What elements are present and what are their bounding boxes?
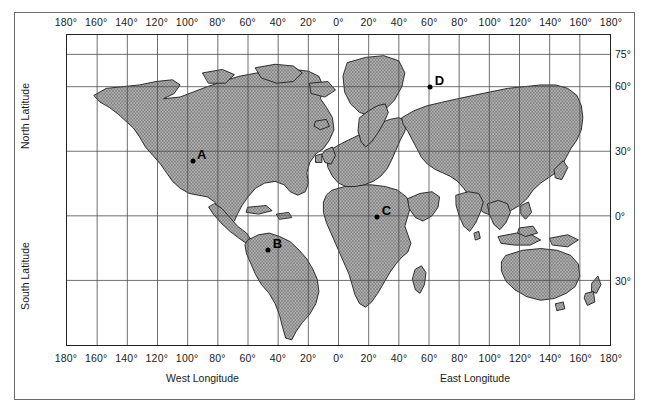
longitude-tick-label: 180° <box>600 352 623 364</box>
latitude-tick-label: 75° <box>615 48 641 60</box>
longitude-tick-label: 120° <box>146 352 169 364</box>
longitude-tick-label: 160° <box>85 352 108 364</box>
longitude-tick-label: 0° <box>333 352 343 364</box>
map-point-label-c: C <box>382 203 391 218</box>
longitude-tick-label: 160° <box>85 16 108 28</box>
longitude-tick-label: 160° <box>569 352 592 364</box>
longitude-tick-label: 80° <box>451 16 467 28</box>
east-longitude-axis-title: East Longitude <box>339 372 611 384</box>
longitude-tick-label: 100° <box>479 352 502 364</box>
sri-lanka <box>474 231 480 240</box>
map-point-marker-d[interactable] <box>428 85 433 90</box>
longitude-tick-label: 120° <box>509 16 532 28</box>
map-point-marker-c[interactable] <box>375 215 380 220</box>
longitude-tick-label: 100° <box>176 352 199 364</box>
latitude-tick-label: 60° <box>615 80 641 92</box>
longitude-tick-label: 100° <box>479 16 502 28</box>
longitude-tick-label: 120° <box>146 16 169 28</box>
ireland <box>316 154 322 163</box>
longitude-tick-label: 0° <box>333 16 343 28</box>
west-longitude-axis-title: West Longitude <box>66 372 339 384</box>
longitude-tick-label: 140° <box>539 352 562 364</box>
map-point-label-b: B <box>273 235 282 250</box>
longitude-tick-label: 60° <box>239 352 255 364</box>
longitude-tick-label: 100° <box>176 16 199 28</box>
longitude-tick-label: 140° <box>539 16 562 28</box>
longitude-tick-label: 140° <box>115 352 138 364</box>
longitude-tick-label: 140° <box>115 16 138 28</box>
longitude-tick-label: 160° <box>569 16 592 28</box>
map-point-marker-a[interactable] <box>190 158 195 163</box>
latitude-axis-right: 75°60°30°0°30° <box>615 34 641 346</box>
longitude-tick-label: 180° <box>600 16 623 28</box>
longitude-tick-label: 20° <box>300 16 316 28</box>
longitude-tick-label: 80° <box>451 352 467 364</box>
longitude-tick-label: 60° <box>421 352 437 364</box>
map-point-label-a: A <box>197 146 206 161</box>
latitude-tick-label: 30° <box>615 145 641 157</box>
map-plot-area: ABCD <box>66 34 611 346</box>
latitude-tick-label: 30° <box>615 275 641 287</box>
tasmania <box>556 302 565 311</box>
longitude-tick-label: 180° <box>55 352 78 364</box>
longitude-tick-label: 120° <box>509 352 532 364</box>
longitude-tick-label: 20° <box>361 352 377 364</box>
longitude-tick-label: 180° <box>55 16 78 28</box>
longitude-tick-label: 20° <box>300 352 316 364</box>
world-map-graphic <box>67 35 610 345</box>
world-map-figure: 180°160°140°120°100°80°60°40°20°0°20°40°… <box>0 0 650 416</box>
latitude-tick-label: 0° <box>615 210 641 222</box>
south-latitude-axis-title: South Latitude <box>19 231 31 321</box>
longitude-tick-label: 40° <box>270 16 286 28</box>
longitude-axis-bottom: 180°160°140°120°100°80°60°40°20°0°20°40°… <box>66 352 611 366</box>
longitude-tick-label: 60° <box>421 16 437 28</box>
longitude-tick-label: 40° <box>391 352 407 364</box>
longitude-tick-label: 80° <box>209 352 225 364</box>
longitude-tick-label: 40° <box>270 352 286 364</box>
longitude-axis-top: 180°160°140°120°100°80°60°40°20°0°20°40°… <box>66 16 611 30</box>
map-point-marker-b[interactable] <box>266 247 271 252</box>
longitude-tick-label: 20° <box>361 16 377 28</box>
longitude-tick-label: 40° <box>391 16 407 28</box>
longitude-tick-label: 60° <box>239 16 255 28</box>
longitude-tick-label: 80° <box>209 16 225 28</box>
latitude-axis-left: 75°60°30°0°30° <box>36 34 62 346</box>
map-point-label-d: D <box>435 73 444 88</box>
north-latitude-axis-title: North Latitude <box>19 71 31 161</box>
